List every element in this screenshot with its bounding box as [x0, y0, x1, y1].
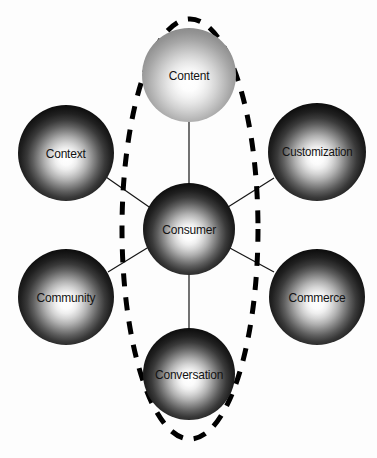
- node-commerce[interactable]: Commerce: [269, 249, 365, 345]
- node-customization[interactable]: Customization: [268, 103, 366, 201]
- node-label-consumer: Consumer: [162, 223, 216, 236]
- connector-community-to-consumer: [108, 245, 152, 272]
- node-content[interactable]: Content: [142, 28, 236, 122]
- diagram-canvas: ContentContextCustomizationCommunityComm…: [0, 0, 377, 458]
- connector-context-to-consumer: [106, 177, 152, 209]
- node-label-customization: Customization: [282, 146, 352, 159]
- connector-customization-to-consumer: [228, 178, 274, 207]
- node-label-community: Community: [37, 291, 96, 304]
- node-label-commerce: Commerce: [288, 291, 345, 304]
- node-label-context: Context: [46, 147, 86, 160]
- node-consumer[interactable]: Consumer: [143, 183, 235, 275]
- connector-commerce-to-consumer: [228, 247, 274, 272]
- node-community[interactable]: Community: [18, 249, 114, 345]
- node-conversation[interactable]: Conversation: [143, 328, 235, 420]
- node-label-conversation: Conversation: [155, 368, 223, 381]
- node-label-content: Content: [169, 69, 210, 82]
- node-context[interactable]: Context: [18, 105, 114, 201]
